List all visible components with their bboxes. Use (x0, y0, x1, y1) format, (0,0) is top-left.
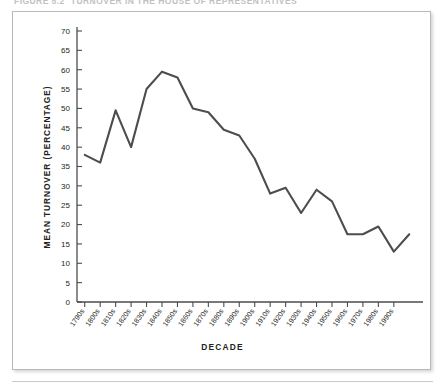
figure-frame: 05101520253035404550556065701790s1800s18… (12, 11, 431, 370)
svg-text:1970s: 1970s (346, 307, 365, 329)
svg-text:45: 45 (61, 124, 70, 133)
svg-text:1870s: 1870s (191, 307, 210, 329)
x-axis-title: DECADE (13, 342, 432, 352)
svg-text:1820s: 1820s (114, 307, 133, 329)
chart-plot-area: 05101520253035404550556065701790s1800s18… (13, 12, 432, 371)
svg-text:65: 65 (61, 46, 70, 55)
y-axis-title: MEAN TURNOVER (PERCENTAGE) (42, 67, 52, 267)
svg-text:1920s: 1920s (269, 307, 288, 329)
turnover-line-chart: 05101520253035404550556065701790s1800s18… (13, 12, 432, 371)
svg-text:55: 55 (61, 85, 70, 94)
svg-text:1850s: 1850s (160, 307, 179, 329)
figure-caption-text: TURNOVER IN THE HOUSE OF REPRESENTATIVES (71, 0, 297, 6)
svg-text:30: 30 (61, 182, 70, 191)
svg-text:10: 10 (61, 259, 70, 268)
svg-text:1880s: 1880s (207, 307, 226, 329)
svg-text:5: 5 (66, 279, 71, 288)
svg-text:0: 0 (66, 298, 71, 307)
svg-text:20: 20 (61, 220, 70, 229)
svg-text:70: 70 (61, 27, 70, 36)
figure-caption: FIGURE 5.2TURNOVER IN THE HOUSE OF REPRE… (14, 0, 434, 7)
svg-text:1950s: 1950s (315, 307, 334, 329)
svg-text:25: 25 (61, 201, 70, 210)
svg-text:1910s: 1910s (253, 307, 272, 329)
svg-text:1930s: 1930s (284, 307, 303, 329)
svg-text:40: 40 (61, 143, 70, 152)
svg-text:1890s: 1890s (222, 307, 241, 329)
svg-text:1940s: 1940s (300, 307, 319, 329)
svg-text:1840s: 1840s (145, 307, 164, 329)
svg-text:1990s: 1990s (377, 307, 396, 329)
svg-text:1810s: 1810s (99, 307, 118, 329)
svg-text:50: 50 (61, 104, 70, 113)
svg-text:15: 15 (61, 240, 70, 249)
svg-text:1800s: 1800s (83, 307, 102, 329)
svg-text:35: 35 (61, 162, 70, 171)
svg-text:1830s: 1830s (130, 307, 149, 329)
svg-text:1900s: 1900s (238, 307, 257, 329)
svg-text:60: 60 (61, 66, 70, 75)
svg-text:1980s: 1980s (361, 307, 380, 329)
svg-text:1960s: 1960s (330, 307, 349, 329)
figure-caption-number: FIGURE 5.2 (14, 0, 65, 6)
bottom-divider (12, 381, 433, 382)
svg-text:1790s: 1790s (68, 307, 87, 329)
svg-text:1860s: 1860s (176, 307, 195, 329)
